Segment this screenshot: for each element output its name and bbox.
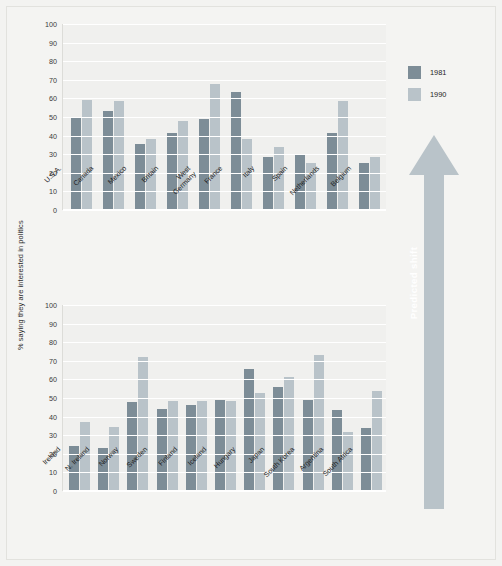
gridline xyxy=(63,342,386,343)
bar-1981 xyxy=(359,163,369,210)
gridline xyxy=(63,361,386,362)
y-axis-tick-label: 70 xyxy=(33,356,57,365)
x-axis-label-cell: South Korea xyxy=(298,491,327,553)
gridline xyxy=(63,472,386,473)
x-axis-label-cell: South Africa xyxy=(357,491,386,553)
x-axis-labels-bottom: IrelandN. IrelandNorwaySwedenFinlandIcel… xyxy=(62,491,386,553)
x-axis-label-cell: Finland xyxy=(181,491,210,553)
y-axis-label-text: % saying they are interested in politics xyxy=(16,150,25,350)
y-axis-tick-label: 60 xyxy=(33,375,57,384)
gridline xyxy=(63,24,386,25)
legend-item-1981: 1981 xyxy=(408,63,478,81)
gridline xyxy=(63,398,386,399)
gridline xyxy=(63,43,386,44)
x-axis-label-cell: France xyxy=(225,210,257,272)
x-axis-label-cell: Italy xyxy=(257,210,289,272)
bar-1981 xyxy=(199,119,209,210)
y-axis-tick-label: 40 xyxy=(33,131,57,140)
bar-1981 xyxy=(332,410,342,491)
gridline xyxy=(63,324,386,325)
bar-1981 xyxy=(186,405,196,491)
legend-item-1990: 1990 xyxy=(408,85,478,103)
bar-1990 xyxy=(343,432,353,491)
x-axis-label-cell: Argentina xyxy=(327,491,356,553)
predicted-shift-label: Predicted shift xyxy=(406,133,422,433)
y-axis-tick-label: 100 xyxy=(33,20,57,29)
y-axis-tick-label: 30 xyxy=(33,150,57,159)
chart-panel-bottom: 1009080706050403020100 IrelandN. Ireland… xyxy=(62,305,386,491)
chart-panel-top: 1009080706050403020100 U.S.A.CanadaMexic… xyxy=(62,24,386,210)
legend: 1981 1990 xyxy=(408,63,478,107)
y-axis-tick-label: 50 xyxy=(33,394,57,403)
bar-1981 xyxy=(273,387,283,491)
bar-1981 xyxy=(103,111,113,210)
gridline xyxy=(63,117,386,118)
bar-1981 xyxy=(361,428,371,491)
y-axis-tick-label: 100 xyxy=(33,301,57,310)
gridline xyxy=(63,379,386,380)
legend-swatch-1981 xyxy=(408,66,421,79)
gridline xyxy=(63,417,386,418)
gridline xyxy=(63,435,386,436)
bar-1981 xyxy=(327,133,337,210)
x-axis-labels-top: U.S.A.CanadaMexicoBritainWestGermanyFran… xyxy=(62,210,386,272)
y-axis-tick-label: 80 xyxy=(33,57,57,66)
x-axis-label-cell: U.S.A. xyxy=(64,210,96,272)
gridline xyxy=(63,80,386,81)
bar-1981 xyxy=(303,400,313,491)
bar-1990 xyxy=(372,391,382,491)
gridline xyxy=(63,136,386,137)
bar-1981 xyxy=(157,409,167,491)
predicted-shift-annotation: Predicted shift xyxy=(406,133,462,511)
bar-1981 xyxy=(215,400,225,491)
y-axis-tick-label: 70 xyxy=(33,75,57,84)
gridline xyxy=(63,98,386,99)
legend-label-1990: 1990 xyxy=(430,90,446,99)
x-axis-label-cell: Spain xyxy=(289,210,321,272)
y-axis-tick-label: 30 xyxy=(33,431,57,440)
bar-1990 xyxy=(370,157,380,210)
x-axis-label-cell: Sweden xyxy=(152,491,181,553)
y-axis-tick-label: 90 xyxy=(33,319,57,328)
x-axis-label-cell: Canada xyxy=(96,210,128,272)
x-axis-label-cell: Britain xyxy=(161,210,193,272)
gridline xyxy=(63,305,386,306)
y-axis-label: % saying they are interested in politics xyxy=(16,0,30,150)
gridline xyxy=(63,154,386,155)
bar-1981 xyxy=(71,117,81,210)
y-axis-tick-label: 80 xyxy=(33,338,57,347)
x-axis-label-cell: Japan xyxy=(269,491,298,553)
x-axis-label-cell: Iceland xyxy=(210,491,239,553)
y-axis-tick-label: 90 xyxy=(33,38,57,47)
y-axis-tick-label: 50 xyxy=(33,113,57,122)
x-axis-label-cell: Hungary xyxy=(240,491,269,553)
x-axis-label-cell: WestGermany xyxy=(193,210,225,272)
x-axis-label-cell: Belgium xyxy=(354,210,386,272)
figure-page: % saying they are interested in politics… xyxy=(0,0,502,566)
bar-1981 xyxy=(127,402,137,491)
x-axis-label-cell: Norway xyxy=(123,491,152,553)
x-axis-label-cell: Ireland xyxy=(64,491,93,553)
y-axis-tick-label: 40 xyxy=(33,412,57,421)
gridline xyxy=(63,61,386,62)
x-axis-label-cell: N. Ireland xyxy=(93,491,122,553)
y-axis-tick-label: 60 xyxy=(33,94,57,103)
legend-swatch-1990 xyxy=(408,88,421,101)
x-axis-label-cell: Netherlands xyxy=(322,210,354,272)
legend-label-1981: 1981 xyxy=(430,68,446,77)
